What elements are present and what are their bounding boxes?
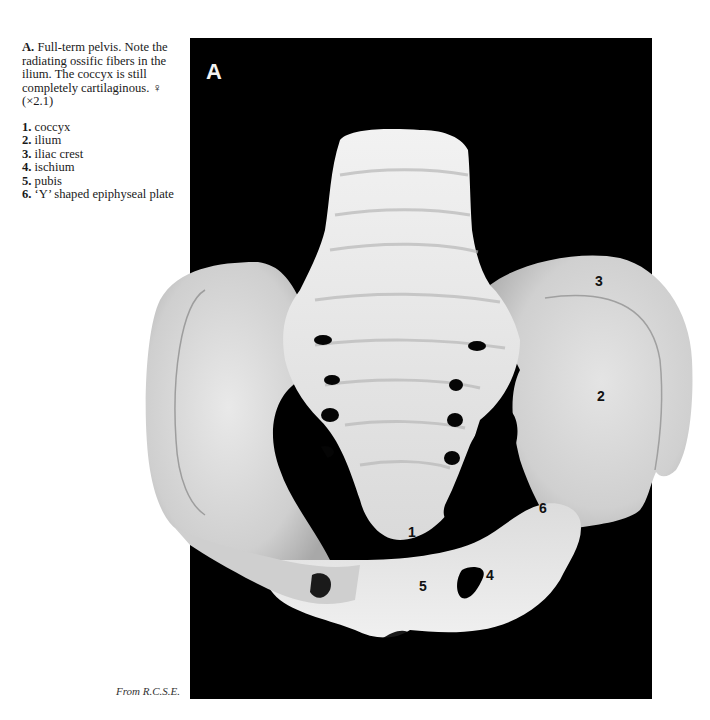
structure-label-ischium: 4 (486, 567, 494, 583)
structure-label-y-plate: 6 (539, 500, 547, 516)
structure-label-pubis: 5 (419, 578, 427, 594)
structure-label-iliac-crest: 3 (595, 273, 603, 289)
panel-letter: A (206, 59, 222, 85)
structure-label-ilium: 2 (597, 388, 605, 404)
structure-label-coccyx: 1 (408, 524, 416, 540)
pelvis-specimen-image (0, 0, 710, 720)
